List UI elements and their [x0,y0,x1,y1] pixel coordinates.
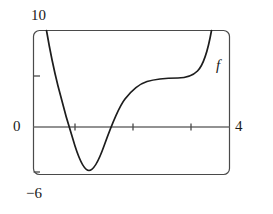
y-axis-max-label: 10 [31,8,46,23]
y-axis-min-label: −6 [26,186,42,201]
curve-label-f: f [216,57,220,74]
x-axis-max-label: 4 [235,119,243,134]
plot-canvas [0,0,273,214]
figure-container: 10 −6 0 4 f [0,0,273,214]
y-axis-ticks [34,76,41,172]
origin-label: 0 [13,119,21,134]
function-curve-f [47,31,212,171]
